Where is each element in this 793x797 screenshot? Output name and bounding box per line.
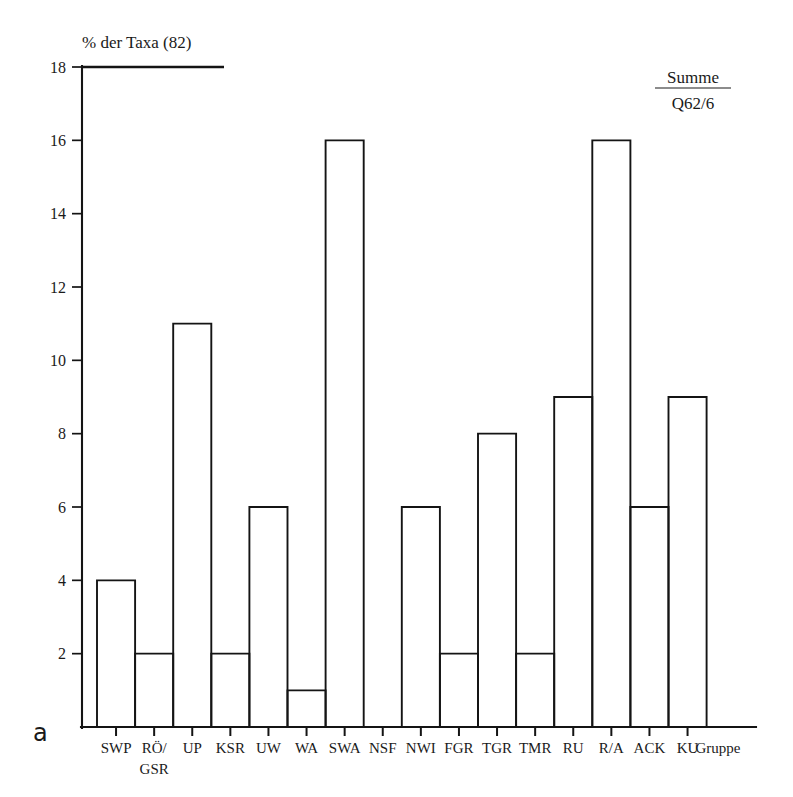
y-axis-title: % der Taxa (82) [82, 33, 191, 52]
x-tick-label: TGR [482, 740, 512, 756]
y-tick-label: 12 [50, 279, 66, 296]
x-tick-label: SWP [101, 740, 132, 756]
x-tick-label: RÖ/ [142, 740, 168, 756]
x-tick-label: GSR [140, 761, 169, 777]
x-tick-label: RU [563, 740, 584, 756]
x-tick-label: TMR [519, 740, 552, 756]
x-tick-label: FGR [444, 740, 473, 756]
legend-title: Summe [667, 68, 719, 87]
y-tick-label: 18 [50, 59, 66, 76]
x-tick-label: NWI [406, 740, 436, 756]
panel-letter: a [33, 719, 48, 747]
y-tick-label: 14 [50, 205, 66, 222]
bar-chart-figure: % der Taxa (82) 24681012141618 SWPRÖ/GSR… [0, 0, 793, 797]
y-tick-label: 16 [50, 132, 66, 149]
chart-background [0, 0, 793, 797]
x-tick-label: WA [295, 740, 318, 756]
y-tick-label: 10 [50, 352, 66, 369]
x-tick-label: UW [256, 740, 282, 756]
x-tick-label: R/A [599, 740, 624, 756]
x-tick-label: NSF [369, 740, 397, 756]
y-tick-label: 6 [58, 499, 66, 516]
x-tick-label: KSR [216, 740, 245, 756]
y-tick-label: 8 [58, 425, 66, 442]
legend-sample-id: Q62/6 [672, 94, 715, 113]
x-tick-label: SWA [329, 740, 361, 756]
x-tick-label: UP [183, 740, 202, 756]
x-tick-label: ACK [634, 740, 666, 756]
y-tick-label: 2 [58, 645, 66, 662]
x-axis-name: Gruppe [696, 740, 741, 756]
y-tick-label: 4 [58, 572, 66, 589]
